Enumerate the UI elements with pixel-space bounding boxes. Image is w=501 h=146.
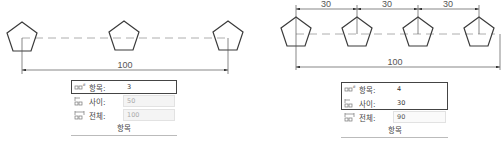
total-dimension-label: 100 (387, 57, 402, 67)
spacing-dimension-label: 30 (443, 0, 453, 9)
items-row: # 항목: 3 (71, 80, 177, 94)
items-count-icon: # (74, 82, 86, 92)
pentagon-shape[interactable] (109, 21, 139, 50)
between-input[interactable]: 50 (123, 95, 175, 107)
panel-footer-title: 항목 (71, 122, 177, 136)
right-array-figure: 30 30 30 100 (281, 0, 500, 70)
array-properties-panel-left: # 항목: 3 사이: 50 전체: 100 항목 (71, 80, 177, 136)
left-array-figure: 100 (7, 21, 243, 74)
between-row: 사이: 50 (71, 94, 177, 108)
total-input[interactable]: 90 (393, 111, 446, 123)
items-count-icon: # (344, 84, 356, 94)
svg-text:#: # (353, 84, 357, 89)
panel-footer-title: 항목 (341, 124, 448, 138)
total-input[interactable]: 100 (123, 109, 175, 121)
array-properties-panel-right: # 항목: 4 사이: 30 전체: 90 항목 (341, 82, 448, 138)
between-row: 사이: 30 (341, 96, 448, 110)
total-spacing-icon (74, 110, 86, 120)
between-input[interactable]: 30 (393, 97, 446, 109)
total-dimension-label: 100 (117, 60, 132, 70)
items-input[interactable]: 3 (123, 81, 175, 93)
total-row: 전체: 100 (71, 108, 177, 122)
between-spacing-icon (74, 96, 86, 106)
between-spacing-icon (344, 98, 356, 108)
svg-text:#: # (83, 82, 87, 87)
items-input[interactable]: 4 (393, 83, 446, 95)
items-row: # 항목: 4 (341, 82, 448, 96)
total-row: 전체: 90 (341, 110, 448, 124)
total-spacing-icon (344, 112, 356, 122)
spacing-dimension-label: 30 (382, 0, 392, 9)
spacing-dimension-label: 30 (321, 0, 331, 9)
